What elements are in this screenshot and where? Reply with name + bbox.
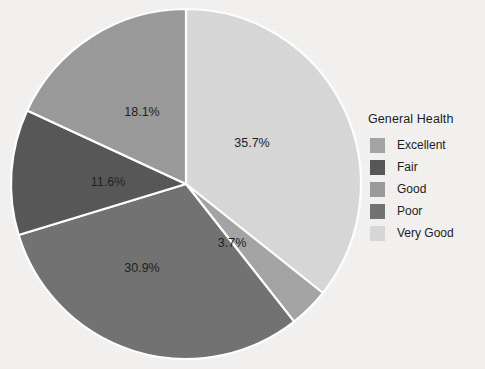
legend: General Health ExcellentFairGoodPoorVery…	[366, 112, 484, 244]
pie-slice-group	[11, 9, 361, 359]
pie-chart-svg: 35.7%3.7%30.9%11.6%18.1%	[0, 0, 372, 369]
legend-item-label: Very Good	[397, 226, 454, 240]
legend-item[interactable]: Fair	[366, 156, 484, 178]
legend-item-label: Excellent	[397, 138, 446, 152]
legend-swatch-icon	[370, 204, 385, 219]
legend-swatch-icon	[370, 182, 385, 197]
legend-item-label: Fair	[397, 160, 418, 174]
legend-item[interactable]: Good	[366, 178, 484, 200]
legend-swatch-icon	[370, 138, 385, 153]
pie-chart-plot-area: 35.7%3.7%30.9%11.6%18.1%	[0, 0, 372, 369]
legend-item[interactable]: Excellent	[366, 134, 484, 156]
legend-swatch-icon	[370, 160, 385, 175]
legend-title: General Health	[368, 112, 484, 126]
pie-slice-percentage-label: 35.7%	[234, 136, 269, 150]
legend-item[interactable]: Poor	[366, 200, 484, 222]
legend-item-label: Good	[397, 182, 426, 196]
pie-slice-percentage-label: 30.9%	[124, 261, 159, 275]
pie-slice-percentage-label: 18.1%	[124, 105, 159, 119]
pie-chart-figure: 35.7%3.7%30.9%11.6%18.1% General Health …	[0, 0, 485, 369]
pie-slice-percentage-label: 11.6%	[91, 175, 126, 189]
legend-item-label: Poor	[397, 204, 422, 218]
legend-swatch-icon	[370, 226, 385, 241]
pie-slice-percentage-label: 3.7%	[218, 236, 247, 250]
legend-item-list: ExcellentFairGoodPoorVery Good	[366, 134, 484, 244]
legend-item[interactable]: Very Good	[366, 222, 484, 244]
